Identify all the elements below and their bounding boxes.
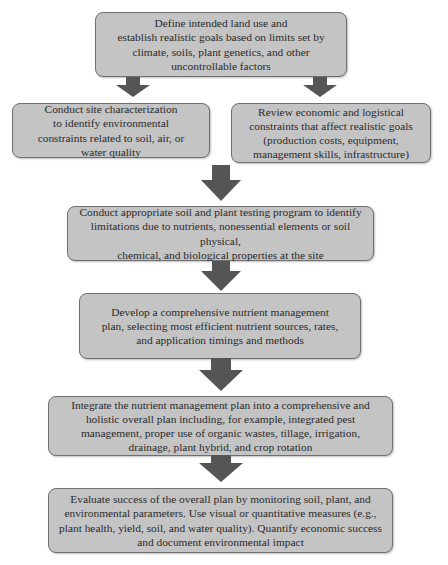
step-line: and document environmental impact — [59, 535, 382, 549]
step-line: Conduct site characterization — [38, 102, 185, 116]
step-line: Evaluate success of the overall plan by … — [59, 492, 382, 506]
arrow-down-icon — [303, 77, 337, 97]
arrow-down-icon — [116, 77, 150, 97]
step-line: plant health, yield, soil, and water qua… — [59, 521, 382, 535]
step-line: climate, soils, plant genetics, and othe… — [117, 45, 324, 59]
step-evaluate-success: Evaluate success of the overall plan by … — [48, 488, 393, 553]
step-line: management skills, infrastructure) — [249, 147, 413, 161]
step-line: chemical, and biological properties at t… — [74, 248, 367, 262]
step-line: establish realistic goals based on limit… — [117, 30, 324, 44]
step-line: Integrate the nutrient management plan i… — [71, 398, 370, 412]
step-line: Develop a comprehensive nutrient managem… — [102, 305, 339, 319]
step-line: Define intended land use and — [117, 16, 324, 30]
step-testing-program: Conduct appropriate soil and plant testi… — [67, 206, 374, 261]
step-define-goals: Define intended land use and establish r… — [95, 12, 347, 77]
arrow-down-icon — [201, 261, 241, 291]
step-line: plan, selecting most efficient nutrient … — [102, 319, 339, 333]
arrow-down-icon — [201, 165, 241, 201]
step-line: drainage, plant hybrid, and crop rotatio… — [71, 440, 370, 454]
step-text: Review economic and logistical constrain… — [249, 105, 413, 162]
step-line: holistic overall plan including, for exa… — [71, 412, 370, 426]
step-line: limitations due to nutrients, nonessenti… — [74, 219, 367, 247]
step-economic-constraints: Review economic and logistical constrain… — [231, 103, 431, 163]
arrow-down-icon — [199, 358, 243, 391]
step-site-characterization: Conduct site characterization to identif… — [12, 103, 210, 158]
step-line: Review economic and logistical — [249, 105, 413, 119]
step-text: Conduct site characterization to identif… — [38, 102, 185, 159]
step-line: constraints that affect realistic goals — [249, 119, 413, 133]
step-line: environmental parameters. Use visual or … — [59, 506, 382, 520]
step-text: Define intended land use and establish r… — [117, 16, 324, 73]
step-nutrient-plan: Develop a comprehensive nutrient managem… — [79, 293, 361, 359]
step-integrate-plan: Integrate the nutrient management plan i… — [48, 396, 393, 456]
step-line: uncontrollable factors — [117, 59, 324, 73]
step-line: constraints related to soil, air, or — [38, 131, 185, 145]
arrow-down-icon — [199, 455, 243, 482]
step-text: Evaluate success of the overall plan by … — [59, 492, 382, 549]
step-text: Integrate the nutrient management plan i… — [71, 398, 370, 455]
step-line: Conduct appropriate soil and plant testi… — [74, 205, 367, 219]
step-text: Develop a comprehensive nutrient managem… — [102, 305, 339, 348]
step-line: management, proper use of organic wastes… — [71, 426, 370, 440]
step-line: (production costs, equipment, — [249, 133, 413, 147]
step-text: Conduct appropriate soil and plant testi… — [74, 205, 367, 262]
step-line: water quality — [38, 145, 185, 159]
step-line: and application timings and methods — [102, 333, 339, 347]
step-line: to identify environmental — [38, 116, 185, 130]
